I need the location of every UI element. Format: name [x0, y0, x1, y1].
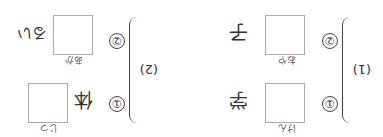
section-label-2: (2): [140, 62, 158, 77]
kanji: 体: [74, 88, 93, 115]
reading: おや: [278, 54, 296, 67]
answer-box[interactable]: [265, 83, 305, 123]
kana-suffix: るい: [17, 24, 47, 45]
section-label-1: (1): [353, 62, 371, 77]
answer-box[interactable]: [53, 15, 93, 55]
reading: けん: [278, 122, 296, 135]
kanji: 子: [229, 20, 248, 47]
reading: あか: [65, 54, 83, 67]
answer-box[interactable]: [28, 83, 68, 123]
item-number: ①: [109, 96, 125, 112]
answer-box[interactable]: [265, 15, 305, 55]
item-number: ②: [322, 33, 338, 49]
worksheet: (1) ① けん 学 ② おや 子 (2) ① 体 じつ ② あか るい: [0, 0, 383, 137]
kanji: 学: [229, 88, 248, 115]
brace: [129, 17, 138, 123]
item-number: ②: [109, 33, 125, 49]
reading: じつ: [40, 122, 58, 135]
item-number: ①: [322, 96, 338, 112]
brace: [342, 17, 351, 123]
